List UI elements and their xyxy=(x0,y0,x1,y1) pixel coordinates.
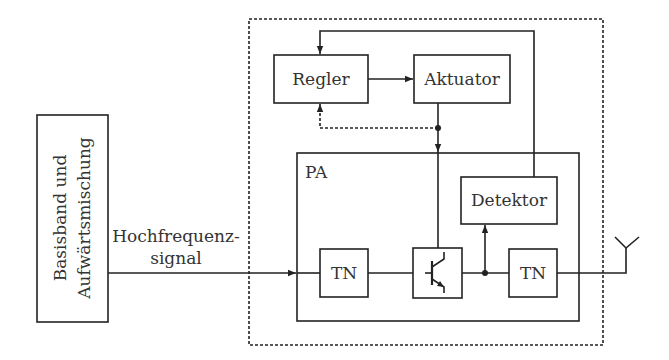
baseband-block[interactable]: Basisband und Aufwärtsmischung xyxy=(37,115,108,322)
aktuator-label: Aktuator xyxy=(423,69,501,89)
aktuator-block[interactable]: Aktuator xyxy=(414,55,510,103)
antenna-icon xyxy=(615,237,639,248)
pa-label: PA xyxy=(305,162,328,182)
transistor-block[interactable] xyxy=(413,248,462,298)
rf-signal-label-line2: signal xyxy=(150,248,202,268)
baseband-label-line1: Basisband und xyxy=(50,155,70,282)
output-to-antenna-line xyxy=(557,248,626,273)
detektor-label: Detektor xyxy=(471,190,548,210)
tn-input-block[interactable]: TN xyxy=(320,249,368,297)
pa-control-diagram: Basisband und Aufwärtsmischung Hochfrequ… xyxy=(0,0,669,360)
junction-dot-actuator xyxy=(435,125,441,131)
rf-signal-label-line1: Hochfrequenz- xyxy=(112,226,240,246)
regler-label: Regler xyxy=(292,69,350,89)
tn-output-label: TN xyxy=(520,263,546,283)
baseband-label-line2: Aufwärtsmischung xyxy=(74,137,94,300)
regler-block[interactable]: Regler xyxy=(274,55,368,103)
tn-output-block[interactable]: TN xyxy=(509,249,557,297)
detektor-block[interactable]: Detektor xyxy=(461,177,557,224)
tn-input-label: TN xyxy=(331,263,357,283)
actuator-dashed-feedback xyxy=(320,104,438,128)
detector-feedback-line xyxy=(320,31,534,177)
